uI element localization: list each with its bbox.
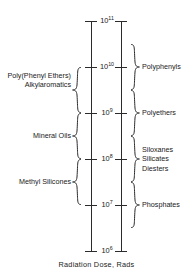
right-brace-group-0 [130, 44, 140, 90]
tick-label-1e11: 1011 [96, 17, 118, 24]
category-line: Siloxanes [142, 145, 173, 154]
category-line: Polyethers [142, 108, 176, 117]
right-brace-group-1 [130, 90, 140, 136]
left-brace-group-1 [72, 113, 82, 159]
tick-exponent: 9 [110, 107, 113, 113]
tick-mantissa: 10 [101, 154, 109, 163]
tick-exponent: 11 [108, 15, 114, 21]
category-label-mineral-oils: Mineral Oils [33, 131, 71, 140]
left-brace-group-2 [72, 159, 82, 205]
left-axis-line [91, 21, 92, 252]
axis-caption: Radiation Dose, Rads [0, 260, 193, 269]
tick-exponent: 8 [110, 153, 113, 159]
radiation-dose-chart: 1011 1010 109 108 107 106 Poly(Phenyl Et… [0, 0, 193, 276]
tick-exponent: 7 [110, 199, 113, 205]
right-brace-group-3 [130, 182, 140, 228]
tick-exponent: 10 [108, 61, 114, 67]
tick-label-1e8: 108 [96, 155, 118, 162]
tick-mantissa: 10 [100, 62, 108, 71]
category-line: Mineral Oils [33, 131, 71, 140]
category-line: Methyl Silicones [19, 177, 71, 186]
tick-mantissa: 10 [101, 108, 109, 117]
category-label-phosphates: Phosphates [142, 200, 180, 209]
tick-exponent: 6 [110, 245, 113, 251]
right-axis-line [121, 21, 122, 252]
category-label-siloxanes-silicates-diesters: Siloxanes Silicates Diesters [142, 145, 173, 173]
category-label-polyethers: Polyethers [142, 108, 176, 117]
tick-label-1e10: 1010 [96, 63, 118, 70]
category-label-polyphenyls: Polyphenyls [142, 62, 181, 71]
tick-label-1e7: 107 [96, 201, 118, 208]
category-label-poly-phenyl-ethers: Poly(Phenyl Ethers) Alkylaromatics [7, 71, 71, 90]
category-line: Polyphenyls [142, 62, 181, 71]
category-line: Alkylaromatics [7, 80, 71, 89]
category-label-methyl-silicones: Methyl Silicones [19, 177, 71, 186]
tick-mantissa: 10 [101, 246, 109, 255]
right-brace-group-2 [130, 136, 140, 182]
category-line: Phosphates [142, 200, 180, 209]
category-line: Diesters [142, 164, 173, 173]
category-line: Silicates [142, 154, 173, 163]
tick-mantissa: 10 [101, 200, 109, 209]
category-line: Poly(Phenyl Ethers) [7, 71, 71, 80]
left-brace-group-0 [72, 67, 82, 113]
tick-label-1e6: 106 [96, 247, 118, 254]
tick-label-1e9: 109 [96, 109, 118, 116]
